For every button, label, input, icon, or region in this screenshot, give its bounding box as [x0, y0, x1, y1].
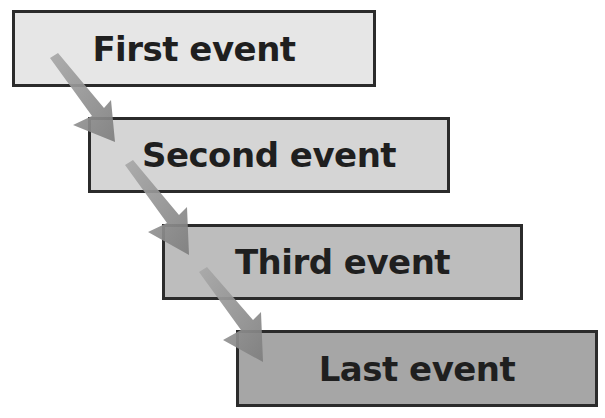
- event-label-last: Last event: [319, 349, 516, 389]
- event-box-first: First event: [12, 10, 376, 87]
- event-box-last: Last event: [236, 330, 598, 407]
- event-label-second: Second event: [142, 135, 396, 175]
- event-label-first: First event: [92, 29, 295, 69]
- event-box-third: Third event: [162, 224, 523, 300]
- event-box-second: Second event: [88, 117, 450, 193]
- event-label-third: Third event: [235, 242, 450, 282]
